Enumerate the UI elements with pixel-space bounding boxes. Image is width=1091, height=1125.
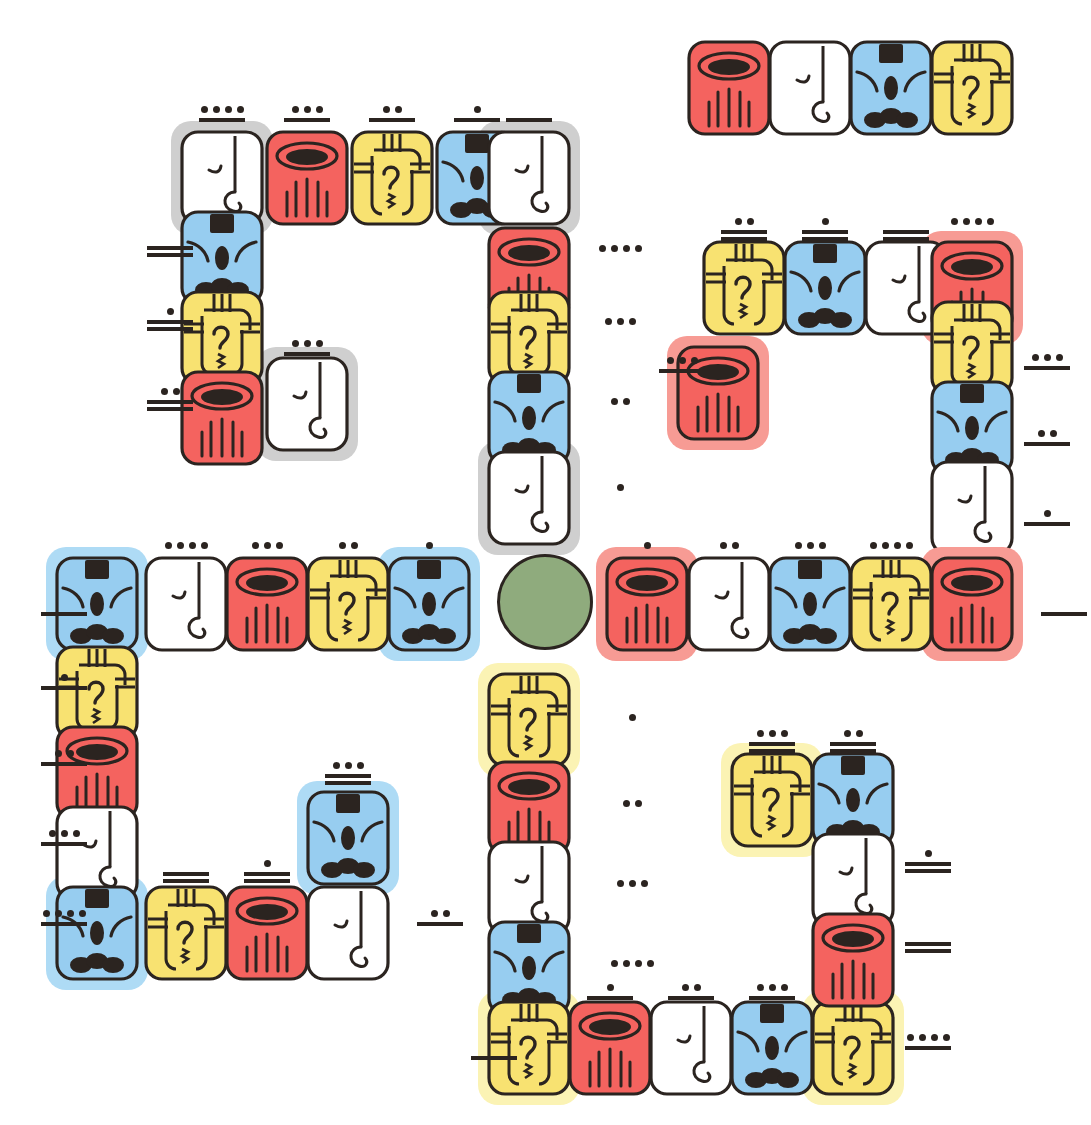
- maya-numeral: [900, 848, 956, 873]
- numeral-dot: [757, 984, 764, 991]
- numeral-bar: [749, 996, 795, 1000]
- numeral-dot: [641, 880, 648, 887]
- glyph-card-yellow[interactable]: [730, 752, 814, 848]
- numeral-bar: [749, 742, 795, 746]
- numeral-dot: [943, 1034, 950, 1041]
- glyph-card-red[interactable]: [568, 1000, 652, 1096]
- maya-numeral: [604, 958, 660, 969]
- maya-numeral: [825, 728, 881, 753]
- numeral-dot: [781, 730, 788, 737]
- numeral-dots: [607, 982, 614, 993]
- numeral-bar: [830, 742, 876, 746]
- numeral-dot: [781, 984, 788, 991]
- numeral-dot: [629, 714, 636, 721]
- numeral-bar: [905, 869, 951, 873]
- maya-numeral: [604, 878, 660, 889]
- maya-numeral: [604, 798, 660, 809]
- numeral-dots: [617, 878, 648, 889]
- numeral-dot: [635, 960, 642, 967]
- numeral-bar: [905, 862, 951, 866]
- glyph-card-yellow[interactable]: [487, 672, 571, 768]
- numeral-dot: [607, 984, 614, 991]
- numeral-bar: [668, 996, 714, 1000]
- numeral-dot: [919, 1034, 926, 1041]
- maya-numeral: [604, 712, 660, 723]
- numeral-dot: [617, 880, 624, 887]
- numeral-dot: [635, 800, 642, 807]
- numeral-dot: [647, 960, 654, 967]
- numeral-bar: [905, 942, 951, 946]
- numeral-dot: [769, 984, 776, 991]
- numeral-bar: [749, 749, 795, 753]
- green-circle-separator: [497, 554, 593, 650]
- numeral-dot: [623, 960, 630, 967]
- numeral-dot: [682, 984, 689, 991]
- numeral-dots: [629, 712, 636, 723]
- numeral-bar: [830, 749, 876, 753]
- maya-numeral: [744, 982, 800, 1000]
- numeral-bar: [905, 949, 951, 953]
- numeral-dot: [623, 800, 630, 807]
- numeral-dot: [611, 960, 618, 967]
- numeral-dot: [769, 730, 776, 737]
- numeral-dot: [629, 880, 636, 887]
- maya-numeral: [900, 928, 956, 953]
- numeral-dots: [757, 728, 788, 739]
- numeral-dot: [856, 730, 863, 737]
- numeral-dots: [844, 728, 863, 739]
- maya-numeral: [744, 728, 800, 753]
- maya-numeral: [900, 1032, 956, 1050]
- numeral-dots: [757, 982, 788, 993]
- numeral-dot: [907, 1034, 914, 1041]
- numeral-dots: [623, 798, 642, 809]
- glyph-card-red[interactable]: [811, 912, 895, 1008]
- glyph-card-blue[interactable]: [730, 1000, 814, 1096]
- numeral-dot: [925, 850, 932, 857]
- numeral-dots: [925, 848, 932, 859]
- numeral-dot: [844, 730, 851, 737]
- numeral-dots: [682, 982, 701, 993]
- numeral-dot: [931, 1034, 938, 1041]
- glyph-card-yellow[interactable]: [811, 1000, 895, 1096]
- numeral-bar: [587, 996, 633, 1000]
- maya-numeral: [582, 982, 638, 1000]
- maya-numeral: [466, 1042, 522, 1060]
- numeral-dot: [694, 984, 701, 991]
- numeral-bar: [471, 1056, 517, 1060]
- numeral-dots: [907, 1032, 950, 1043]
- numeral-dots: [611, 958, 654, 969]
- numeral-dot: [757, 730, 764, 737]
- glyph-card-white[interactable]: [649, 1000, 733, 1096]
- maya-numeral: [663, 982, 719, 1000]
- numeral-bar: [905, 1046, 951, 1050]
